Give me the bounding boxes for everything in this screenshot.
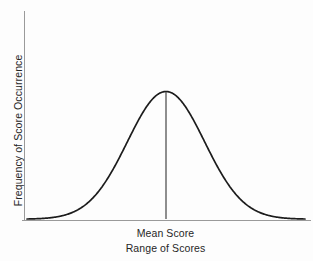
x-axis-label: Range of Scores bbox=[9, 242, 313, 254]
bell-curve-plot bbox=[0, 0, 313, 261]
y-axis-label: Frequency of Score Occurrence bbox=[7, 0, 29, 261]
normal-distribution-figure: Frequency of Score Occurrence Mean Score… bbox=[0, 0, 313, 261]
mean-score-label: Mean Score bbox=[9, 227, 313, 239]
